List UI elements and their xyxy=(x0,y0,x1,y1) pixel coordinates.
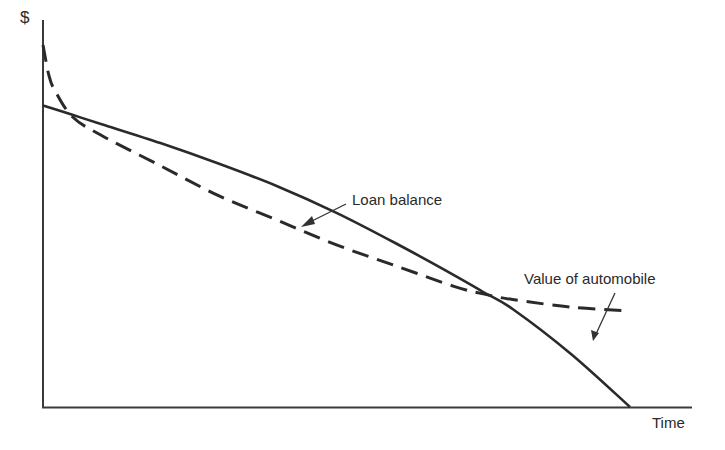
y-axis-label: $ xyxy=(20,8,29,28)
x-axis-label: Time xyxy=(652,414,685,431)
loan-balance-label: Loan balance xyxy=(352,191,442,208)
automobile-value-label: Value of automobile xyxy=(524,270,655,287)
series-layer xyxy=(43,45,630,407)
chart-canvas xyxy=(0,0,725,450)
auto-annotation-arrow xyxy=(591,293,615,341)
